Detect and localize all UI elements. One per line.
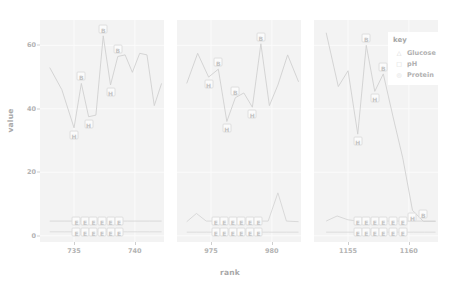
x-tick-label: 980 (252, 247, 292, 255)
point-label: B (77, 72, 86, 81)
point-label: E (254, 217, 263, 226)
point-label: B (99, 24, 108, 33)
panel-2: HBHBHBEEEEEEEEEEEE (177, 20, 301, 242)
y-tick-label: 60 (6, 41, 36, 49)
legend-title: key (393, 36, 450, 44)
x-tick-label: 1160 (389, 247, 429, 255)
chart-root: 0204060 value rank HBHBHBEEEEEEEEEEEE735… (0, 0, 460, 281)
point-label: E (379, 217, 388, 226)
legend-entry-label: Protein (405, 71, 434, 79)
point-label: B (256, 32, 265, 41)
x-tick-mark (74, 242, 75, 245)
point-label: H (70, 130, 79, 139)
point-label: H (408, 213, 417, 222)
y-tick-label: 20 (6, 168, 36, 176)
point-label: H (248, 110, 257, 119)
x-tick-label: 735 (54, 247, 94, 255)
legend-marker-icon: □ (393, 60, 405, 67)
point-label: H (84, 119, 93, 128)
panel-plot (40, 20, 164, 242)
legend-marker-icon: ◎ (393, 71, 405, 78)
panel-plot (177, 20, 301, 242)
legend-entry-label: Glucose (405, 49, 436, 57)
point-label: B (214, 58, 223, 67)
point-label: E (389, 228, 398, 237)
x-axis-title: rank (0, 268, 460, 277)
x-tick-mark (211, 242, 212, 245)
point-label: E (389, 217, 398, 226)
legend-entry: ◎Protein (393, 69, 450, 80)
series-line-glucose (50, 36, 162, 128)
x-axis-2: 975980 (177, 242, 301, 264)
legend-entry-label: pH (405, 60, 417, 68)
point-label: E (115, 217, 124, 226)
point-label: H (106, 88, 115, 97)
point-label: B (231, 86, 240, 95)
panel-1: HBHBHBEEEEEEEEEEEE (40, 20, 164, 242)
x-axis-3: 11551160 (314, 242, 438, 264)
x-tick-mark (348, 242, 349, 245)
point-label: E (398, 217, 407, 226)
legend-marker-icon: △ (393, 49, 405, 56)
point-label: E (398, 228, 407, 237)
point-label: H (222, 124, 231, 133)
point-label: B (379, 62, 388, 71)
x-axis-1: 735740 (40, 242, 164, 264)
point-label: H (370, 94, 379, 103)
point-label: B (362, 34, 371, 43)
point-label: B (419, 210, 428, 219)
point-label: E (115, 227, 124, 236)
legend-entries: △Glucose□pH◎Protein (393, 47, 450, 80)
x-tick-mark (409, 242, 410, 245)
legend-entry: □pH (393, 58, 450, 69)
x-tick-mark (272, 242, 273, 245)
point-label: H (353, 137, 362, 146)
point-label: E (254, 228, 263, 237)
y-axis-title: value (6, 81, 15, 161)
y-tick-label: 0 (6, 232, 36, 240)
x-tick-mark (135, 242, 136, 245)
x-tick-label: 740 (115, 247, 155, 255)
x-tick-label: 1155 (328, 247, 368, 255)
point-label: H (204, 80, 213, 89)
point-label: E (379, 228, 388, 237)
legend-entry: △Glucose (393, 47, 450, 58)
point-label: B (113, 45, 122, 54)
x-tick-label: 975 (191, 247, 231, 255)
legend: key △Glucose□pH◎Protein (388, 32, 456, 85)
